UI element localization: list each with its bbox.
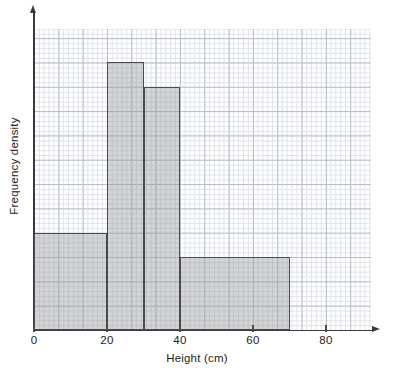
y-axis-line [33, 12, 35, 331]
x-axis-tick [33, 325, 34, 332]
right-arrow-icon [372, 326, 380, 332]
y-axis-title: Frequency density [8, 86, 20, 246]
x-axis-tick-label: 20 [87, 334, 127, 346]
x-axis-tick [179, 325, 180, 332]
x-axis-tick [325, 325, 326, 332]
x-axis-line [33, 330, 374, 332]
x-axis-tick-label: 80 [306, 334, 346, 346]
x-axis-tick-label: 40 [160, 334, 200, 346]
histogram-figure: 020406080 Height (cm) Frequency density [0, 0, 394, 374]
up-arrow-icon [30, 5, 36, 13]
x-axis-tick-label: 60 [233, 334, 273, 346]
x-axis-tick [252, 325, 253, 332]
x-axis-tick [106, 325, 107, 332]
graph-paper-grid [34, 29, 371, 330]
x-axis-title: Height (cm) [0, 352, 394, 364]
cropped-text-sliver [0, 0, 394, 4]
x-axis-tick-label: 0 [14, 334, 54, 346]
